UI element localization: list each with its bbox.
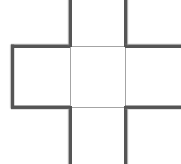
cross-grid-diagram xyxy=(0,0,181,164)
background-rect xyxy=(0,0,181,164)
diagram-canvas xyxy=(0,0,181,164)
